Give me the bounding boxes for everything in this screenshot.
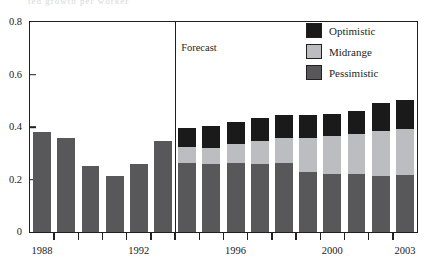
cropped-title-remnant: ted growth per worker (28, 0, 129, 6)
bar-segment-historical (33, 132, 51, 232)
bar-segment-optimistic (202, 126, 220, 148)
x-tick-label: 1996 (225, 245, 246, 256)
bar-segment-optimistic (348, 111, 366, 134)
bar-forecast-stacked (178, 128, 196, 232)
x-tick-mark (150, 233, 151, 240)
bar-forecast-stacked (348, 111, 366, 232)
bar-segment-historical (154, 141, 172, 232)
y-tick-label: 0.4 (9, 122, 22, 133)
bar-segment-optimistic (396, 100, 414, 129)
chart-legend: OptimisticMidrangePessimistic (306, 22, 379, 81)
x-tick-label: 1988 (32, 245, 53, 256)
bar-segment-optimistic (275, 115, 293, 137)
bar-segment-pessimistic (275, 163, 293, 232)
x-tick-mark (174, 233, 175, 240)
bar-historical (82, 166, 100, 232)
legend-item: Pessimistic (306, 64, 379, 81)
x-tick-mark (344, 233, 345, 240)
legend-item-label: Optimistic (329, 25, 375, 37)
bar-segment-midrange (348, 134, 366, 173)
bar-segment-pessimistic (372, 176, 390, 232)
bar-segment-historical (130, 164, 148, 232)
x-tick-mark (320, 233, 321, 240)
bar-segment-historical (82, 166, 100, 232)
bar-segment-pessimistic (348, 174, 366, 232)
x-tick-mark (199, 233, 200, 240)
bar-segment-midrange (178, 147, 196, 163)
bar-segment-midrange (396, 129, 414, 175)
bar-segment-pessimistic (396, 175, 414, 232)
bar-segment-midrange (323, 136, 341, 173)
bar-segment-optimistic (251, 118, 269, 141)
legend-item: Optimistic (306, 22, 379, 39)
bar-segment-historical (57, 138, 75, 233)
y-tick-mark (29, 126, 36, 128)
forecast-annotation-label: Forecast (181, 42, 217, 53)
bar-forecast-stacked (275, 115, 293, 232)
bar-forecast-stacked (372, 103, 390, 232)
y-axis: 00.20.40.60.8 (0, 0, 29, 276)
y-tick-mark (29, 74, 36, 76)
legend-swatch-icon (306, 23, 322, 38)
bar-segment-midrange (275, 138, 293, 164)
bar-historical (33, 132, 51, 232)
bar-segment-pessimistic (299, 172, 317, 232)
x-tick-label: 2003 (394, 245, 415, 256)
x-tick-mark (78, 233, 79, 240)
bar-historical (106, 176, 124, 232)
y-tick-label: 0.2 (9, 174, 22, 185)
bar-forecast-stacked (323, 114, 341, 232)
bar-segment-midrange (202, 148, 220, 164)
x-tick-mark (223, 233, 224, 240)
bar-segment-pessimistic (227, 163, 245, 232)
bar-segment-optimistic (227, 122, 245, 145)
x-tick-label: 2000 (322, 245, 343, 256)
bar-forecast-stacked (396, 100, 414, 232)
bar-segment-optimistic (323, 114, 341, 137)
bar-segment-pessimistic (251, 164, 269, 232)
x-tick-mark (368, 233, 369, 240)
legend-item-label: Midrange (329, 46, 372, 58)
bar-segment-optimistic (372, 103, 390, 131)
bar-segment-midrange (299, 138, 317, 172)
bar-forecast-stacked (299, 115, 317, 232)
bar-forecast-stacked (251, 118, 269, 232)
bar-segment-pessimistic (202, 164, 220, 232)
legend-swatch-icon (306, 65, 322, 80)
forecast-divider-line (175, 21, 176, 233)
bar-segment-midrange (372, 131, 390, 175)
x-tick-mark (102, 233, 103, 240)
bar-segment-midrange (251, 141, 269, 164)
x-tick-mark (126, 233, 127, 240)
bar-historical (154, 141, 172, 232)
x-tick-mark (295, 233, 296, 240)
legend-swatch-icon (306, 44, 322, 59)
bar-segment-optimistic (178, 128, 196, 147)
bar-historical (57, 138, 75, 233)
x-tick-label: 1992 (128, 245, 149, 256)
legend-item: Midrange (306, 43, 379, 60)
x-tick-mark (53, 233, 54, 240)
x-tick-mark (247, 233, 248, 240)
bar-historical (130, 164, 148, 232)
x-tick-mark (271, 233, 272, 240)
bar-segment-pessimistic (178, 163, 196, 232)
y-tick-label: 0.6 (9, 69, 22, 80)
bar-segment-historical (106, 176, 124, 232)
legend-item-label: Pessimistic (329, 67, 379, 79)
bar-segment-midrange (227, 144, 245, 163)
y-tick-label: 0 (17, 227, 22, 238)
bar-forecast-stacked (202, 126, 220, 232)
bar-segment-optimistic (299, 115, 317, 137)
bar-chart-figure: ted growth per worker 00.20.40.60.8 Fore… (0, 0, 428, 276)
bar-segment-pessimistic (323, 174, 341, 232)
bar-forecast-stacked (227, 122, 245, 232)
y-tick-label: 0.8 (9, 17, 22, 28)
x-tick-mark (392, 233, 393, 240)
